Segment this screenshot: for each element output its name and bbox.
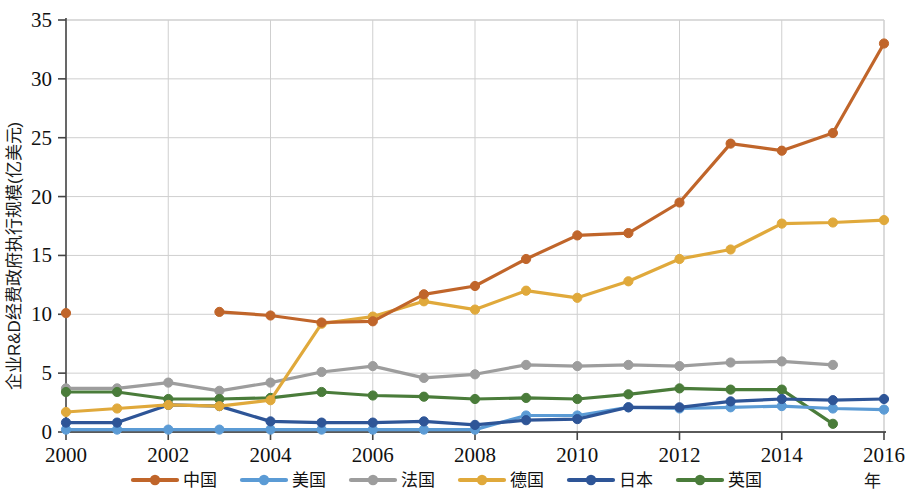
data-point	[215, 425, 224, 434]
data-point	[573, 394, 582, 403]
data-point	[624, 229, 633, 238]
data-point	[777, 385, 786, 394]
data-point	[624, 403, 633, 412]
data-point	[777, 146, 786, 155]
data-point	[777, 219, 786, 228]
data-point	[522, 254, 531, 263]
data-point	[522, 360, 531, 369]
data-point	[317, 367, 326, 376]
y-tick-label: 10	[31, 302, 52, 326]
y-tick-label: 35	[31, 8, 52, 32]
y-tick-label: 0	[42, 420, 53, 444]
data-point	[266, 396, 275, 405]
data-point	[470, 281, 479, 290]
data-point	[368, 317, 377, 326]
data-point	[522, 393, 531, 402]
legend-item-日本[interactable]: 日本	[569, 471, 653, 490]
data-point	[164, 378, 173, 387]
x-axis-title-text: 年	[864, 472, 881, 491]
data-point	[113, 387, 122, 396]
data-point	[419, 373, 428, 382]
legend-label: 法国	[401, 471, 435, 490]
data-point	[675, 254, 684, 263]
data-point	[266, 417, 275, 426]
data-point	[61, 309, 70, 318]
x-tick-label: 2002	[147, 443, 189, 467]
data-point	[879, 394, 888, 403]
legend-marker-icon	[368, 475, 378, 485]
data-point	[828, 360, 837, 369]
legend-label: 日本	[619, 471, 653, 490]
data-point	[624, 360, 633, 369]
x-tick-label: 2004	[250, 443, 293, 467]
data-point	[470, 420, 479, 429]
data-point	[624, 390, 633, 399]
data-point	[266, 378, 275, 387]
x-tick-label: 2012	[659, 443, 701, 467]
legend-marker-icon	[586, 475, 596, 485]
data-point	[828, 218, 837, 227]
data-point	[726, 385, 735, 394]
data-point	[675, 198, 684, 207]
y-tick-label: 5	[42, 361, 53, 385]
legend-marker-icon	[259, 475, 269, 485]
y-axis-title-text: 企业R&D经费政府执行规模(亿美元)	[5, 122, 24, 390]
chart-canvas: 05101520253035 2000200220042006200820102…	[0, 0, 906, 496]
legend-label: 英国	[728, 471, 762, 490]
data-point	[624, 277, 633, 286]
data-point	[61, 418, 70, 427]
legend-marker-icon	[150, 475, 160, 485]
data-point	[777, 394, 786, 403]
legend-item-中国[interactable]: 中国	[133, 471, 217, 490]
data-point	[368, 362, 377, 371]
data-point	[573, 231, 582, 240]
y-axis-ticks: 05101520253035	[31, 8, 66, 444]
data-point	[419, 392, 428, 401]
data-point	[368, 418, 377, 427]
legend-marker-icon	[477, 475, 487, 485]
x-tick-label: 2010	[556, 443, 598, 467]
data-point	[573, 415, 582, 424]
line-chart: 05101520253035 2000200220042006200820102…	[0, 0, 906, 496]
data-point	[879, 216, 888, 225]
x-tick-label: 2000	[45, 443, 87, 467]
y-tick-label: 15	[31, 243, 52, 267]
data-point	[828, 396, 837, 405]
x-tick-label: 2016	[863, 443, 905, 467]
data-point	[317, 318, 326, 327]
data-point	[61, 407, 70, 416]
data-point	[879, 39, 888, 48]
data-point	[215, 402, 224, 411]
data-point	[164, 400, 173, 409]
data-point	[726, 358, 735, 367]
data-point	[675, 403, 684, 412]
data-point	[470, 370, 479, 379]
x-tick-label: 2008	[454, 443, 496, 467]
y-tick-label: 25	[31, 126, 52, 150]
data-point	[777, 357, 786, 366]
data-point	[726, 397, 735, 406]
legend-item-德国[interactable]: 德国	[460, 471, 544, 490]
data-point	[470, 305, 479, 314]
data-point	[266, 311, 275, 320]
legend-label: 美国	[292, 471, 326, 490]
data-point	[573, 362, 582, 371]
legend-label: 中国	[183, 471, 217, 490]
data-point	[164, 425, 173, 434]
data-point	[522, 286, 531, 295]
data-point	[368, 391, 377, 400]
legend-label: 德国	[510, 471, 544, 490]
legend-item-法国[interactable]: 法国	[351, 471, 435, 490]
data-point	[61, 387, 70, 396]
legend-item-英国[interactable]: 英国	[678, 471, 762, 490]
legend-item-美国[interactable]: 美国	[242, 471, 326, 490]
x-axis-title: 年	[864, 472, 881, 491]
data-point	[470, 394, 479, 403]
legend: 中国美国法国德国日本英国	[133, 471, 762, 490]
data-point	[675, 362, 684, 371]
data-point	[522, 416, 531, 425]
data-point	[113, 418, 122, 427]
data-point	[726, 139, 735, 148]
x-axis-ticks: 200020022004200620082010201220142016	[45, 432, 905, 467]
data-point	[573, 293, 582, 302]
